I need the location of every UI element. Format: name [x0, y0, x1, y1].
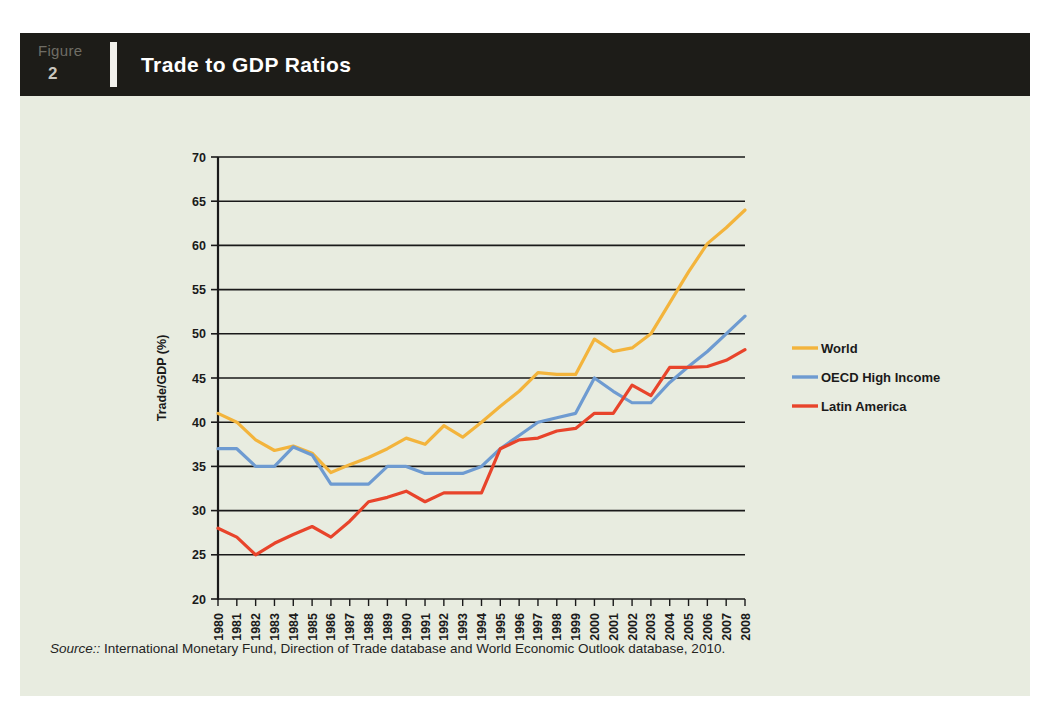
x-tick-label: 2006	[701, 613, 715, 641]
y-tick-label: 30	[192, 504, 206, 518]
y-axis-title: Trade/GDP (%)	[155, 335, 169, 422]
y-tick-label: 70	[192, 151, 206, 165]
series-line	[218, 316, 745, 484]
line-chart: 2025303540455055606570 19801981198219831…	[20, 96, 1030, 696]
figure-header-bar: Figure 2 Trade to GDP Ratios	[20, 33, 1030, 96]
x-tick-label: 1990	[400, 613, 414, 641]
x-tick-label: 1994	[475, 613, 489, 641]
x-tick-label: 2002	[626, 613, 640, 641]
legend-label: Latin America	[821, 399, 907, 414]
figure-number-block: Figure 2	[20, 33, 110, 96]
x-tick-label: 1985	[306, 613, 320, 641]
x-tick-label: 1997	[531, 613, 545, 641]
x-tick-label: 2004	[663, 613, 677, 641]
x-tick-label: 2005	[682, 613, 696, 641]
header-divider-rule	[110, 42, 117, 87]
x-tick-label: 1995	[494, 613, 508, 641]
y-tick-label: 45	[192, 372, 206, 386]
x-tick-label: 1981	[230, 613, 244, 641]
x-tick-label: 1996	[513, 613, 527, 641]
figure-number: 2	[48, 64, 57, 84]
chart-legend: WorldOECD High IncomeLatin America	[792, 341, 940, 414]
series-line	[218, 350, 745, 555]
y-tick-label: 35	[192, 460, 206, 474]
y-axis-title-text: Trade/GDP (%)	[155, 335, 169, 422]
y-tick-label: 20	[192, 593, 206, 607]
x-tick-label: 2003	[644, 613, 658, 641]
source-text: International Monetary Fund, Direction o…	[100, 641, 725, 656]
x-tick-label: 2000	[588, 613, 602, 641]
x-tick-label: 2007	[720, 613, 734, 641]
legend-label: OECD High Income	[821, 370, 940, 385]
y-tick-label: 60	[192, 239, 206, 253]
x-tick-label: 1991	[419, 613, 433, 641]
y-tick-label: 55	[192, 283, 206, 297]
figure-panel: Figure 2 Trade to GDP Ratios 20253035404…	[20, 33, 1030, 696]
chart-area: 2025303540455055606570 19801981198219831…	[20, 96, 1030, 696]
x-tick-label: 1987	[343, 613, 357, 641]
x-tick-label: 1993	[456, 613, 470, 641]
x-tick-label: 1998	[550, 613, 564, 641]
y-axis-ticks: 2025303540455055606570	[192, 151, 218, 607]
x-tick-label: 1989	[381, 613, 395, 641]
x-tick-label: 1982	[249, 613, 263, 641]
series-line	[218, 210, 745, 473]
y-tick-label: 25	[192, 548, 206, 562]
x-tick-label: 2001	[607, 613, 621, 641]
x-tick-label: 1992	[437, 613, 451, 641]
legend-label: World	[821, 341, 858, 356]
x-tick-label: 1980	[212, 613, 226, 641]
y-tick-label: 40	[192, 416, 206, 430]
figure-title: Trade to GDP Ratios	[117, 33, 351, 96]
y-tick-label: 65	[192, 195, 206, 209]
series-lines-group	[218, 210, 745, 555]
x-axis-ticks: 1980198119821983198419851986198719881989…	[212, 599, 753, 641]
x-tick-label: 1986	[324, 613, 338, 641]
source-label: Source::	[50, 641, 100, 656]
figure-label-word: Figure	[38, 42, 82, 59]
source-note: Source:: International Monetary Fund, Di…	[50, 641, 725, 656]
x-tick-label: 1999	[569, 613, 583, 641]
x-tick-label: 1983	[268, 613, 282, 641]
x-tick-label: 2008	[739, 613, 753, 641]
x-tick-label: 1984	[287, 613, 301, 641]
x-tick-label: 1988	[362, 613, 376, 641]
y-tick-label: 50	[192, 327, 206, 341]
